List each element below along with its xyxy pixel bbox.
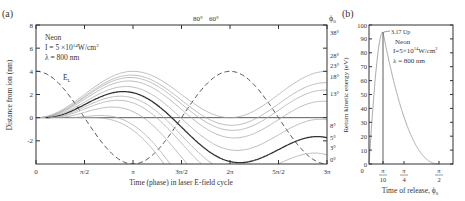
svg-text:20: 20	[361, 133, 368, 140]
panel-a-annotation-wavelength: λ = 800 nm	[45, 53, 79, 62]
svg-text:π: π	[381, 167, 385, 174]
svg-text:3π/2: 3π/2	[175, 168, 188, 176]
svg-text:3°: 3°	[330, 144, 336, 151]
peak-label: 3.17 Up	[391, 29, 410, 35]
panel-b-annotation-gas: Neon	[395, 38, 411, 46]
field-label: EL	[63, 73, 71, 83]
svg-text:100: 100	[357, 22, 367, 29]
panel-a-annotation-gas: Neon	[45, 33, 61, 42]
svg-text:3π: 3π	[323, 168, 331, 176]
svg-text:30: 30	[361, 119, 368, 126]
panel-a-annotation-intensity: I = 5 ×1014W/cm2	[45, 43, 99, 52]
svg-text:0: 0	[364, 161, 367, 168]
svg-text:28°: 28°	[330, 52, 340, 59]
svg-text:70: 70	[361, 63, 368, 70]
panel-b-ylabel: Return kinetic energy (eV)	[342, 57, 350, 133]
svg-text:38°: 38°	[330, 29, 340, 36]
svg-text:23°: 23°	[330, 62, 340, 69]
svg-text:90: 90	[361, 35, 368, 42]
svg-text:18°: 18°	[330, 73, 340, 80]
figure: (a) Neon I = 5 ×1014W/cm2 λ = 800 nm EL …	[0, 0, 465, 201]
svg-text:4: 4	[30, 68, 34, 76]
panel-a-xlabel: Time (phase) in laser E-field cycle	[129, 178, 233, 187]
svg-text:0: 0	[34, 168, 38, 176]
svg-text:0°: 0°	[330, 156, 336, 163]
svg-text:0: 0	[360, 167, 363, 174]
svg-text:13°: 13°	[330, 90, 340, 97]
svg-text:2: 2	[437, 176, 440, 183]
svg-text:π: π	[437, 167, 441, 174]
svg-text:40: 40	[361, 105, 368, 112]
svg-text:2: 2	[30, 91, 34, 99]
svg-text:0: 0	[30, 114, 34, 122]
panel-a-ylabel: Distance from ion (nm)	[5, 59, 14, 130]
phi0-label: ϕ0	[329, 14, 336, 24]
svg-text:5π/2: 5π/2	[272, 168, 285, 176]
svg-text:π: π	[131, 168, 135, 176]
svg-text:5°: 5°	[330, 134, 336, 141]
svg-text:80: 80	[361, 49, 368, 56]
svg-text:-2: -2	[27, 137, 33, 145]
svg-text:10: 10	[380, 176, 387, 183]
svg-text:8: 8	[30, 22, 34, 30]
svg-text:10: 10	[361, 147, 368, 154]
svg-text:50: 50	[361, 91, 368, 98]
panel-b-frame	[369, 25, 453, 164]
svg-text:π/2: π/2	[80, 168, 89, 176]
svg-text:60: 60	[361, 77, 368, 84]
panel-a-label: (a)	[2, 8, 13, 20]
panel-b-xlabel: Time of release, ϕ0	[382, 186, 439, 196]
svg-text:8°: 8°	[330, 122, 336, 129]
svg-text:π: π	[402, 167, 406, 174]
svg-text:2π: 2π	[226, 168, 234, 176]
panel-b-annotation-intensity: I=5×1014W/cm2	[393, 46, 438, 55]
top-label-60: 60°	[209, 15, 219, 23]
panel-b-label: (b)	[342, 8, 354, 20]
svg-text:6: 6	[30, 45, 34, 53]
svg-text:4: 4	[402, 176, 406, 183]
panel-b-annotation-wavelength: λ = 800 nm	[393, 57, 426, 65]
top-label-80: 80°	[193, 15, 203, 23]
